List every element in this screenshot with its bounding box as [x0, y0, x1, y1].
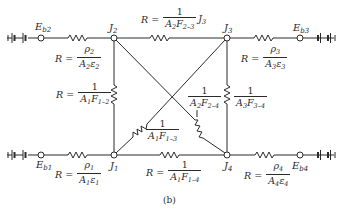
- label-eb4: Eb4: [292, 161, 308, 174]
- node-j4: [224, 152, 230, 158]
- label-j3: J3: [224, 23, 232, 36]
- resistance-surface-1: R = ρ1 A1ε1: [55, 160, 101, 188]
- node-eb1: [38, 152, 44, 158]
- resistance-space-2-3: R = 1 A2F2–3 J3: [141, 7, 206, 32]
- resistance-surface-4: R = ρ4 A4ε4: [244, 161, 290, 189]
- resistance-space-3-4: 1 A3F3–4: [234, 86, 267, 111]
- node-eb4: [297, 152, 303, 158]
- node-eb2: [38, 35, 44, 41]
- label-j4: J4: [224, 161, 232, 174]
- resistance-surface-3: R = ρ3 A3ε3: [241, 44, 287, 72]
- label-eb2: Eb2: [35, 22, 51, 35]
- label-eb1: Eb1: [36, 160, 52, 173]
- resistance-space-1-3: 1 A1F1–3: [146, 119, 179, 144]
- resistance-space-1-2: R = 1 A1F1–2: [56, 82, 111, 107]
- resistance-surface-2: R = ρ2 A2ε2: [55, 44, 101, 72]
- resistance-space-1-4: R = 1 A1F1–4: [146, 160, 201, 185]
- node-j1: [111, 152, 117, 158]
- resistance-space-2-4: 1 A2F2–4: [188, 86, 221, 111]
- label-j1: J1: [110, 161, 118, 174]
- label-eb3: Eb3: [293, 23, 309, 36]
- figure-caption: (b): [163, 195, 176, 205]
- label-j2: J2: [109, 23, 117, 36]
